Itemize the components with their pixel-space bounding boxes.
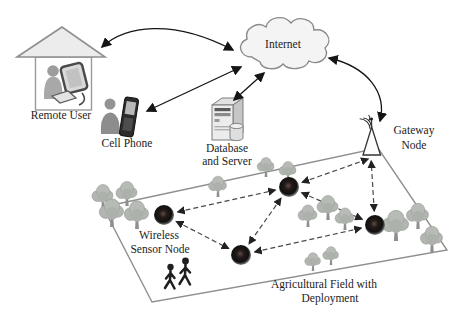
internet-cloud: Internet xyxy=(241,18,329,69)
field-label-line2: Deployment xyxy=(302,292,360,305)
house-roof-icon xyxy=(17,27,105,57)
wsn-label-line1: Wireless xyxy=(139,229,179,241)
sensor-node-n3 xyxy=(231,245,251,265)
link-internet-gateway xyxy=(329,58,381,121)
cell-phone-label: Cell Phone xyxy=(102,137,153,149)
sensor-node-n1 xyxy=(154,205,174,225)
database-server-station: Database and Server xyxy=(202,98,252,167)
database-label-line2: and Server xyxy=(202,155,252,167)
computer-monitor-icon xyxy=(60,62,88,94)
gateway-node-station: Gateway Node xyxy=(360,115,435,155)
wifi-waves-icon xyxy=(360,115,373,129)
cell-phone-station: Cell Phone xyxy=(101,97,153,149)
antenna-tower-icon xyxy=(363,127,381,155)
diagram-canvas: Remote User Cell Phone Internet xyxy=(0,0,459,321)
sensor-node-n2 xyxy=(279,177,299,197)
database-cylinder-icon xyxy=(230,123,243,140)
field-label-line1: Agricultural Field with xyxy=(271,278,377,291)
gateway-label-line2: Node xyxy=(402,139,427,151)
remote-user-label: Remote User xyxy=(31,109,92,121)
link-house-internet xyxy=(102,29,233,50)
wsn-label-line2: Sensor Node xyxy=(130,243,189,255)
database-label-line1: Database xyxy=(206,142,248,154)
network-diagram: Remote User Cell Phone Internet xyxy=(0,0,459,321)
internet-label: Internet xyxy=(265,38,302,50)
mobile-phone-icon xyxy=(119,97,139,138)
link-server-internet xyxy=(234,73,264,100)
gateway-label-line1: Gateway xyxy=(394,124,435,137)
person-icon xyxy=(101,99,120,135)
sensor-node-n4 xyxy=(365,215,385,235)
remote-user-station: Remote User xyxy=(17,27,105,121)
